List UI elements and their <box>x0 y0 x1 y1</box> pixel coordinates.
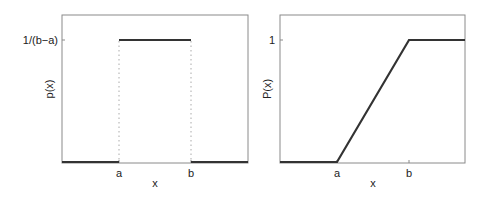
cdf-xtick-label-b: b <box>406 167 412 179</box>
cdf-line <box>280 40 465 162</box>
cdf-xlabel: x <box>370 177 376 189</box>
cdf-axes-box <box>280 15 465 163</box>
pdf-xtick-label-b: b <box>188 167 194 179</box>
cdf-xtick-label-a: a <box>334 167 341 179</box>
pdf-ytick-label: 1/(b−a) <box>23 34 58 46</box>
pdf-plot: 1/(b−a) a b x p(x) <box>23 15 248 189</box>
pdf-xtick-label-a: a <box>116 167 123 179</box>
pdf-ylabel: p(x) <box>43 80 55 99</box>
cdf-ytick-label: 1 <box>269 34 275 46</box>
cdf-plot: 1 a b x P(x) <box>261 15 465 189</box>
cdf-ylabel: P(x) <box>261 79 273 99</box>
figure: 1/(b−a) a b x p(x) 1 a b x P(x) <box>0 0 488 198</box>
pdf-axes-box <box>62 15 248 163</box>
pdf-xlabel: x <box>152 177 158 189</box>
